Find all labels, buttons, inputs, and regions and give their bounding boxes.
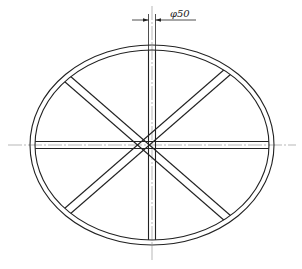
center-lines <box>8 6 296 262</box>
spoke-diagonal-down <box>57 69 246 235</box>
technical-drawing: φ50 <box>0 0 302 269</box>
arrow-left-icon <box>156 18 162 21</box>
spoke-diagonal-up <box>57 55 246 221</box>
dimension-label: φ50 <box>170 8 190 19</box>
arrow-right-icon <box>143 18 149 21</box>
dimension-phi50: φ50 <box>132 8 196 22</box>
